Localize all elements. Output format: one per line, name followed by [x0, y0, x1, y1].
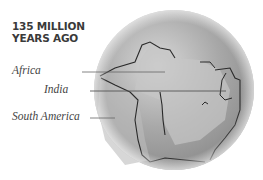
title-line-1: 135 MILLION: [12, 20, 85, 32]
label-africa: Africa: [12, 64, 41, 76]
title-line-2: YEARS AGO: [12, 32, 85, 44]
title: 135 MILLION YEARS AGO: [12, 20, 85, 44]
label-india: India: [44, 83, 68, 95]
label-south-america: South America: [12, 110, 80, 122]
